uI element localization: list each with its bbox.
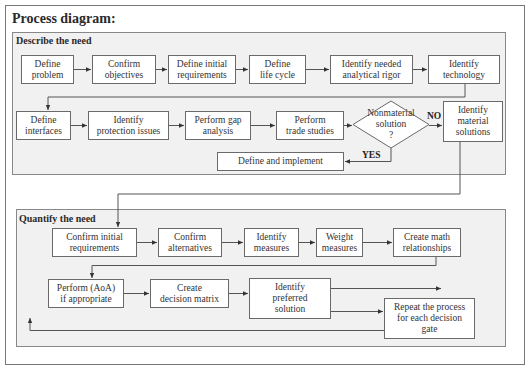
box-confirm-initial-requirements: Confirm initial requirements <box>52 228 137 257</box>
section-label-describe: Describe the need <box>16 35 92 46</box>
box-identify-preferred-solution: Identify preferred solution <box>249 278 331 319</box>
box-perform-aoa: Perform (AoA) if appropriate <box>48 279 124 308</box>
box-define-interfaces: Define interfaces <box>16 111 71 140</box>
label-no: NO <box>427 111 441 121</box>
box-define-and-implement: Define and implement <box>217 152 344 171</box>
box-identify-analytical-rigor: Identify needed analytical rigor <box>330 55 413 84</box>
box-create-math-relationships: Create math relationships <box>393 228 461 257</box>
box-perform-gap-analysis: Perform gap analysis <box>185 111 251 140</box>
box-identify-protection-issues: Identify protection issues <box>88 111 169 140</box>
box-confirm-objectives: Confirm objectives <box>92 55 156 84</box>
box-define-life-cycle: Define life cycle <box>249 55 306 84</box>
decision-text: Nonmaterial solution ? <box>353 108 429 141</box>
label-yes: YES <box>362 150 380 160</box>
box-define-problem: Define problem <box>21 55 74 84</box>
box-identify-measures: Identify measures <box>244 228 299 257</box>
box-confirm-alternatives: Confirm alternatives <box>158 228 222 257</box>
box-identify-technology: Identify technology <box>428 55 500 84</box>
box-perform-trade-studies: Perform trade studies <box>276 111 344 140</box>
box-repeat-process: Repeat the process for each decision gat… <box>384 298 475 339</box>
box-create-decision-matrix: Create decision matrix <box>150 279 229 308</box>
page-title: Process diagram: <box>12 11 116 27</box>
box-define-initial-requirements: Define initial requirements <box>168 55 236 84</box>
box-weight-measures: Weight measures <box>316 228 363 257</box>
section-label-quantify: Quantify the need <box>19 213 96 224</box>
box-identify-material-solutions: Identify material solutions <box>443 101 503 142</box>
